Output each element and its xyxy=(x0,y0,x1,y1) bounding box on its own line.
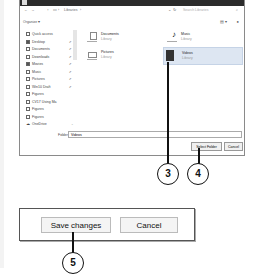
pictures-icon xyxy=(26,77,30,81)
select-folder-dialog: ← → ↑ ▭ › Libraries › ⌄ ↻ Search Librari… xyxy=(19,0,245,156)
select-folder-button[interactable]: Select Folder xyxy=(191,142,222,151)
documents-library-icon xyxy=(87,31,97,42)
desktop-icon xyxy=(26,40,30,44)
nav-item-figures[interactable]: Figures xyxy=(26,91,78,99)
library-item-music[interactable]: ♪ Music Library xyxy=(167,31,227,43)
pin-icon: ✐ xyxy=(69,39,72,47)
help-icon[interactable]: ● xyxy=(237,19,239,24)
chevron-down-icon: ⌄ xyxy=(71,121,74,129)
videos-library-icon xyxy=(166,50,174,61)
cancel-button[interactable]: Cancel xyxy=(224,142,243,151)
document-icon xyxy=(26,47,30,51)
pin-icon: ✐ xyxy=(69,69,72,77)
nav-item-movies[interactable]: Movies✐ xyxy=(26,61,78,69)
folder-icon xyxy=(26,107,30,111)
nav-item-cv17[interactable]: CV17 Using Ma xyxy=(26,99,78,107)
pictures-library-icon xyxy=(87,49,97,60)
download-icon xyxy=(26,55,30,59)
breadcrumb-chevron-icon: › xyxy=(80,8,81,12)
view-options-icon[interactable]: ▤ ▾ xyxy=(220,19,227,24)
path-dropdown-icon[interactable]: ⌄ xyxy=(168,8,171,12)
forward-button[interactable]: → xyxy=(31,8,35,12)
organize-menu[interactable]: Organize ▾ xyxy=(23,20,40,24)
breadcrumb-libraries[interactable]: Libraries xyxy=(64,8,77,12)
library-icon: ▭ › xyxy=(53,8,59,12)
title-bar xyxy=(20,0,244,6)
settings-panel: Save changes Cancel xyxy=(19,208,195,241)
nav-scrollbar[interactable] xyxy=(73,30,77,60)
movie-folder-icon xyxy=(26,62,30,66)
back-button[interactable]: ← xyxy=(24,8,28,12)
page-margin xyxy=(0,0,4,268)
pin-icon: ✐ xyxy=(69,46,72,54)
folder-icon xyxy=(26,92,30,96)
library-item-documents[interactable]: Documents Library xyxy=(87,31,147,43)
nav-item-quick-access[interactable]: Quick access xyxy=(26,31,78,39)
music-icon xyxy=(26,70,30,74)
nav-item-win10-draft[interactable]: Win10 Draft✐ xyxy=(26,84,78,92)
library-item-videos[interactable]: Videos Library xyxy=(163,47,243,65)
nav-item-pictures[interactable]: Pictures✐ xyxy=(26,76,78,84)
star-icon xyxy=(26,32,30,36)
navigation-pane: Quick access Desktop✐ Documents✐ Downloa… xyxy=(26,31,78,129)
music-library-icon: ♪ xyxy=(167,31,177,42)
folder-icon xyxy=(26,100,30,104)
callout-3-leader xyxy=(167,62,169,165)
cloud-icon: ☁ xyxy=(26,122,30,126)
folder-input[interactable]: Videos xyxy=(68,131,242,138)
callout-4: 4 xyxy=(187,163,209,185)
nav-item-desktop[interactable]: Desktop✐ xyxy=(26,39,78,47)
pin-icon: ✐ xyxy=(69,54,72,62)
search-icon[interactable]: ⌕ xyxy=(236,8,238,12)
search-input[interactable]: Search Libraries xyxy=(183,8,231,12)
nav-item-figures-3[interactable]: Figures xyxy=(26,114,78,122)
library-item-pictures[interactable]: Pictures Library xyxy=(87,49,147,61)
nav-item-onedrive[interactable]: ☁OneDrive⌄ xyxy=(26,121,78,129)
folder-icon xyxy=(26,85,30,89)
folder-icon xyxy=(26,115,30,119)
address-bar: ← → ↑ ▭ › Libraries › ⌄ ↻ Search Librari… xyxy=(20,8,244,17)
pin-icon: ✐ xyxy=(69,76,72,84)
refresh-button[interactable]: ↻ xyxy=(173,8,176,12)
app-icon xyxy=(22,0,27,5)
panel-cancel-button[interactable]: Cancel xyxy=(120,217,178,233)
callout-3: 3 xyxy=(157,163,179,185)
nav-item-downloads[interactable]: Downloads✐ xyxy=(26,54,78,62)
up-button[interactable]: ↑ xyxy=(47,8,49,12)
save-changes-button[interactable]: Save changes xyxy=(41,217,111,233)
nav-item-music[interactable]: Music✐ xyxy=(26,69,78,77)
callout-5-leader xyxy=(72,232,74,254)
callout-5: 5 xyxy=(62,252,84,274)
pin-icon: ✐ xyxy=(69,84,72,92)
nav-item-figures-2[interactable]: Figures xyxy=(26,106,78,114)
nav-item-documents[interactable]: Documents✐ xyxy=(26,46,78,54)
pin-icon: ✐ xyxy=(69,61,72,69)
